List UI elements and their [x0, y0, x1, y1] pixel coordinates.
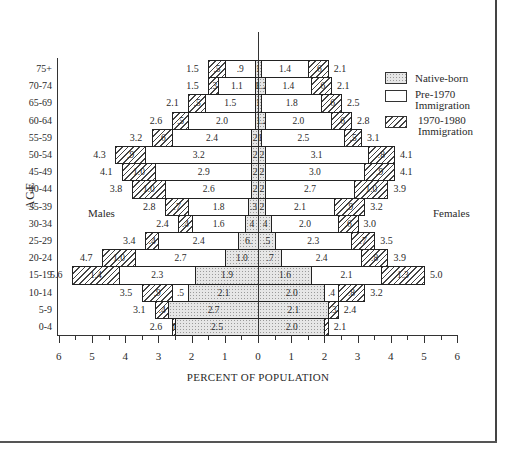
x-tick-label: 1 [281, 350, 301, 362]
female-total: 2.5 [347, 97, 360, 108]
female-bar-recent: .8 [361, 249, 389, 267]
male-total: 2.6 [150, 115, 163, 126]
male-bar-recent: 1 [172, 318, 176, 336]
male-bar-pre1970: 2.0 [188, 112, 255, 130]
female-bar-pre1970: 3.0 [265, 163, 366, 181]
female-bar-native: 1.6 [258, 266, 312, 284]
x-tick [125, 335, 126, 343]
female-bar-pre1970: 2.4 [281, 249, 362, 267]
male-bar-recent: .4 [178, 215, 192, 233]
x-tick [75, 335, 76, 340]
male-bar-pre1970: 2.6 [165, 180, 252, 198]
female-bar-pre1970: 2.0 [271, 215, 338, 233]
x-tick-label: 5 [414, 350, 434, 362]
female-bar-recent: .7 [351, 232, 375, 250]
female-total: 3.2 [370, 287, 383, 298]
age-label-65-69: 65-69 [14, 97, 52, 108]
male-bar-pre1970: .9 [225, 60, 256, 78]
male-total: 3.5 [120, 287, 133, 298]
female-bar-native: 2.1 [258, 301, 329, 319]
male-total: 4.1 [100, 166, 113, 177]
female-total: 4.1 [400, 166, 413, 177]
age-label-75+: 75+ [14, 63, 52, 74]
male-total: 3.2 [130, 132, 143, 143]
legend-swatch-native [385, 72, 407, 84]
x-tick [142, 335, 143, 340]
x-tick [308, 335, 309, 340]
x-tick-label: 4 [115, 350, 135, 362]
female-bar-pre1970: 2.5 [261, 129, 345, 147]
x-tick-label: 3 [348, 350, 368, 362]
female-bar-recent: .9 [334, 198, 365, 216]
age-label-70-74: 70-74 [14, 80, 52, 91]
age-label-15-19: 15-19 [14, 269, 52, 280]
female-total: 3.9 [393, 252, 406, 263]
x-tick-label: 1 [215, 350, 235, 362]
male-bar-native: 2.5 [175, 318, 259, 336]
female-bar-recent: .6 [331, 112, 352, 130]
female-bar-recent: .8 [338, 284, 366, 302]
x-tick-label: 2 [182, 350, 202, 362]
female-bar-pre1970: 3.1 [265, 146, 369, 164]
x-tick [275, 335, 276, 340]
male-total: 2.6 [150, 321, 163, 332]
x-tick-label: 3 [148, 350, 168, 362]
age-label-60-64: 60-64 [14, 115, 52, 126]
male-bar-recent: .7 [165, 198, 189, 216]
female-total: 3.5 [380, 235, 393, 246]
x-tick [59, 335, 60, 343]
female-total: 5.0 [430, 269, 443, 280]
x-tick [374, 335, 375, 340]
female-bar-pre1970: 2.3 [275, 232, 352, 250]
males-label: Males [88, 207, 115, 219]
female-bar-recent: 1.0 [354, 180, 388, 198]
x-tick [324, 335, 325, 343]
female-total: 2.4 [344, 304, 357, 315]
female-bar-recent: .8 [368, 146, 396, 164]
male-bar-recent: .9 [142, 284, 173, 302]
center-axis-line [258, 32, 259, 336]
female-total: 2.1 [337, 80, 350, 91]
male-total: 3.8 [110, 183, 123, 194]
female-bar-native: .7 [258, 249, 282, 267]
x-tick [192, 335, 193, 343]
age-label-5-9: 5-9 [14, 304, 52, 315]
x-tick [441, 335, 442, 340]
x-tick-label: 2 [314, 350, 334, 362]
x-tick [407, 335, 408, 340]
male-total: 1.5 [186, 80, 199, 91]
age-label-10-14: 10-14 [14, 287, 52, 298]
male-bar-native: 1.0 [225, 249, 259, 267]
female-total: 3.2 [370, 201, 383, 212]
x-tick [225, 335, 226, 343]
female-total: 3.9 [393, 183, 406, 194]
male-bar-recent: .4 [155, 301, 169, 319]
age-label-50-54: 50-54 [14, 149, 52, 160]
male-bar-recent: 1.0 [102, 249, 136, 267]
female-bar-pre1970: 1.4 [261, 60, 308, 78]
male-bar-pre1970: 1.8 [188, 198, 249, 216]
age-label-55-59: 55-59 [14, 132, 52, 143]
male-total: 1.5 [186, 63, 199, 74]
male-bar-pre1970: 2.4 [158, 232, 239, 250]
male-bar-pre1970: 1.6 [192, 215, 246, 233]
legend-swatch-recent [385, 116, 407, 128]
female-bar-native: 2.0 [258, 284, 325, 302]
legend-label-native: Native-born [415, 73, 468, 84]
male-bar-pre1970: 1.5 [205, 94, 256, 112]
female-bar-pre1970: 1.4 [265, 77, 312, 95]
figure: .1.9.51.51.4.62.111.1.31.51.21.4.62.1.11… [0, 0, 505, 449]
x-tick [175, 335, 176, 340]
age-label-30-34: 30-34 [14, 218, 52, 229]
female-bar-recent: .6 [338, 215, 359, 233]
male-total: 2.8 [143, 201, 156, 212]
x-tick-label: 0 [248, 350, 268, 362]
age-label-0-4: 0-4 [14, 321, 52, 332]
frame-border-right [495, 0, 497, 442]
female-bar-recent: .6 [311, 77, 332, 95]
male-bar-native: 6. [238, 232, 259, 250]
male-bar-recent: 1.0 [122, 163, 156, 181]
y-axis-line [57, 58, 58, 336]
age-label-25-29: 25-29 [14, 235, 52, 246]
male-bar-recent: .9 [115, 146, 146, 164]
